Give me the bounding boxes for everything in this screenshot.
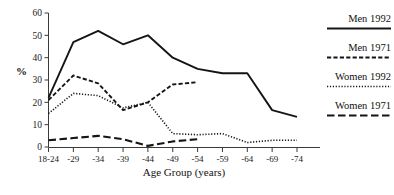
chart-figure: 0102030405060 % 18-24-29-34-39-44-49-54-…: [0, 0, 394, 195]
series-line-women-1992: [49, 93, 298, 142]
y-tick-label: 10: [33, 120, 43, 130]
series-line-women-1971: [49, 136, 198, 146]
x-axis: 18-24-29-34-39-44-49-54-59-64-69-74 Age …: [38, 148, 320, 180]
legend-label-women-1971: Women 1971: [335, 100, 391, 111]
x-axis-title: Age Group (years): [143, 166, 226, 179]
x-tick-label: -44: [142, 154, 154, 164]
y-tick-label: 60: [33, 8, 43, 18]
legend-label-men-1971: Men 1971: [348, 42, 391, 53]
x-axis-ticks: 18-24-29-34-39-44-49-54-59-64-69-74: [38, 148, 303, 165]
x-tick-label: -69: [266, 154, 278, 164]
y-tick-label: 30: [33, 75, 43, 85]
x-tick-label: -34: [92, 154, 104, 164]
x-tick-label: -59: [216, 154, 228, 164]
series-line-men-1971: [49, 76, 198, 111]
data-series-group: [49, 31, 298, 146]
series-line-men-1992: [49, 31, 298, 117]
y-tick-label: 20: [33, 98, 43, 108]
x-tick-label: -39: [117, 154, 129, 164]
chart-legend: Men 1992Men 1971Women 1992Women 1971: [327, 13, 391, 116]
y-axis-ticks: 0102030405060: [33, 8, 49, 152]
y-tick-label: 40: [33, 53, 43, 63]
x-tick-label: 18-24: [38, 154, 59, 164]
y-tick-label: 0: [37, 142, 42, 152]
x-tick-label: -74: [291, 154, 303, 164]
x-tick-label: -54: [192, 154, 204, 164]
y-axis-title: %: [16, 65, 27, 77]
x-tick-label: -49: [167, 154, 179, 164]
x-tick-label: -29: [67, 154, 79, 164]
legend-label-men-1992: Men 1992: [348, 13, 391, 24]
legend-label-women-1992: Women 1992: [335, 71, 391, 82]
y-axis: 0102030405060 %: [16, 8, 49, 152]
y-tick-label: 50: [33, 31, 43, 41]
x-tick-label: -64: [241, 154, 253, 164]
line-chart: 0102030405060 % 18-24-29-34-39-44-49-54-…: [0, 0, 394, 195]
